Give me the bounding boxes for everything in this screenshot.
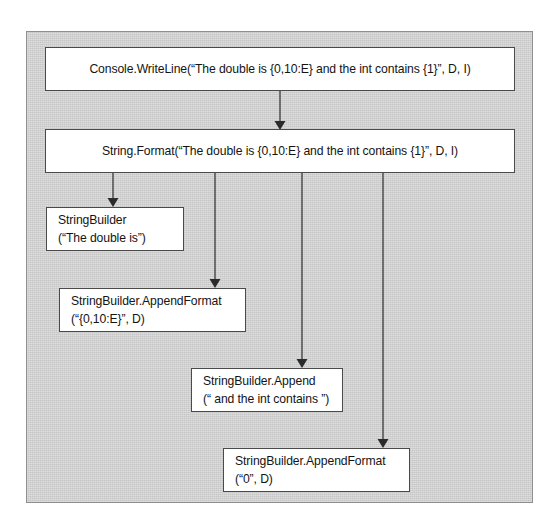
- node-stringbuilder[interactable]: StringBuilder (“The double is”): [46, 207, 184, 251]
- node-stringbuilder-appendformat-2[interactable]: StringBuilder.AppendFormat (“0”, D): [223, 448, 410, 492]
- diagram-canvas: Console.WriteLine(“The double is {0,10:E…: [0, 0, 556, 527]
- node-console-writeline[interactable]: Console.WriteLine(“The double is {0,10:E…: [45, 47, 515, 91]
- node-stringbuilder-append-title: StringBuilder.Append: [203, 372, 342, 390]
- node-console-writeline-text: Console.WriteLine(“The double is {0,10:E…: [89, 60, 470, 78]
- node-stringbuilder-appendformat-2-args: (“0”, D): [235, 470, 409, 488]
- node-stringbuilder-append-args: (“ and the int contains ”): [203, 390, 342, 408]
- diagram-frame: [26, 31, 533, 503]
- node-string-format[interactable]: String.Format(“The double is {0,10:E} an…: [45, 129, 515, 173]
- node-stringbuilder-appendformat-2-title: StringBuilder.AppendFormat: [235, 452, 409, 470]
- node-stringbuilder-title: StringBuilder: [58, 211, 183, 229]
- node-string-format-text: String.Format(“The double is {0,10:E} an…: [102, 142, 458, 160]
- node-stringbuilder-appendformat-1[interactable]: StringBuilder.AppendFormat (“{0,10:E}”, …: [59, 288, 246, 332]
- node-stringbuilder-appendformat-1-args: (“{0,10:E}”, D): [71, 310, 245, 328]
- node-stringbuilder-args: (“The double is”): [58, 229, 183, 247]
- node-stringbuilder-append[interactable]: StringBuilder.Append (“ and the int cont…: [191, 368, 343, 412]
- node-stringbuilder-appendformat-1-title: StringBuilder.AppendFormat: [71, 292, 245, 310]
